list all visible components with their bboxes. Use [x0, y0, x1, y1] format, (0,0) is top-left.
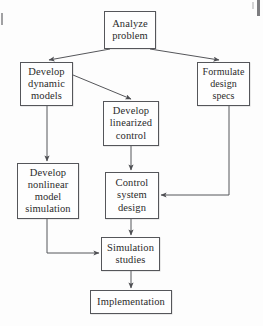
node-label-line: design — [210, 78, 237, 90]
node-label-line: Control — [116, 177, 149, 189]
node-analyze-problem[interactable]: Analyze problem — [104, 11, 156, 49]
node-label-line: Develop — [113, 105, 149, 117]
scan-artifact-right-faint — [252, 2, 254, 9]
edge-analyze-to-formulate — [150, 49, 219, 60]
node-formulate-design-specs[interactable]: Formulate design specs — [197, 62, 250, 106]
node-label-line: design — [118, 202, 146, 214]
node-label-line: model — [35, 191, 62, 203]
node-label-line: Develop — [30, 167, 66, 179]
edge-dynamic-to-linearized — [73, 75, 131, 99]
node-implementation[interactable]: Implementation — [90, 290, 172, 314]
edge-analyze-to-dynamic — [49, 49, 110, 60]
node-label-line: Formulate — [202, 66, 244, 78]
node-label-line: problem — [112, 30, 148, 42]
scan-artifact-right — [257, 0, 260, 16]
node-label-line: studies — [116, 254, 146, 266]
node-label-line: models — [31, 90, 62, 102]
node-simulation-studies[interactable]: Simulation studies — [101, 237, 160, 271]
node-label-line: dynamic — [28, 78, 65, 90]
node-label-line: Simulation — [107, 242, 154, 254]
node-develop-linearized-control[interactable]: Develop linearized control — [103, 101, 159, 146]
node-label-line: control — [116, 130, 146, 142]
edge-formulate-to-control — [161, 106, 229, 195]
node-label-line: Develop — [28, 66, 64, 78]
node-label-line: specs — [212, 90, 234, 102]
node-label-line: system — [117, 189, 147, 201]
flowchart-canvas: Analyze problem Develop dynamic models F… — [0, 0, 263, 326]
edge-nonlinear-to-simulation — [47, 219, 99, 253]
node-develop-nonlinear-model-simulation[interactable]: Develop nonlinear model simulation — [17, 163, 79, 219]
scan-artifact-left — [1, 13, 3, 25]
node-control-system-design[interactable]: Control system design — [105, 172, 159, 219]
node-label-line: Implementation — [97, 296, 165, 308]
node-develop-dynamic-models[interactable]: Develop dynamic models — [20, 62, 73, 106]
node-label-line: linearized — [110, 117, 152, 129]
node-label-line: simulation — [25, 203, 70, 215]
node-label-line: Analyze — [112, 18, 148, 30]
node-label-line: nonlinear — [28, 179, 69, 191]
